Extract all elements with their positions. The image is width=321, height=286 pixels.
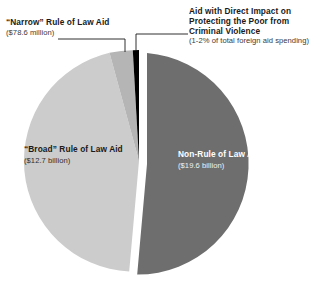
callout-direct-impact-aid: Aid with Direct Impact on Protecting the… [189,6,319,46]
callout-direct-title: Aid with Direct Impact on Protecting the… [189,6,301,36]
slice-label-non-rule-of-law-aid: Non-Rule of Law Aid ($19.6 billion) [178,150,261,170]
callout-direct-value: (1-2% of total foreign aid spending) [189,37,319,46]
slice-label-nonrule-value: ($19.6 billion) [178,161,261,170]
callout-narrow-rule-of-law-aid: “Narrow” Rule of Law Aid ($78.6 million) [6,18,110,38]
callout-direct-title-line3: Criminal Violence [189,26,260,36]
slice-label-broad-rule-of-law-aid: “Broad” Rule of Law Aid ($12.7 billion) [24,145,123,165]
slice-label-broad-title: “Broad” Rule of Law Aid [24,145,123,155]
callout-direct-title-line2: Protecting the Poor from [189,16,289,26]
callout-direct-title-line1: Aid with Direct Impact on [189,6,291,16]
callout-narrow-value: ($78.6 million) [6,29,110,38]
slice-label-broad-value: ($12.7 billion) [24,156,123,165]
leader-line-narrow [58,39,125,52]
leader-line-direct-impact [136,34,188,51]
slice-label-nonrule-title: Non-Rule of Law Aid [178,150,261,160]
callout-narrow-title: “Narrow” Rule of Law Aid [6,18,110,28]
pie-chart: “Narrow” Rule of Law Aid ($78.6 million)… [0,0,321,286]
